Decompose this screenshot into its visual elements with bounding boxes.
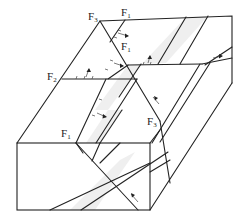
strata-lines	[50, 16, 232, 210]
label-f1-mid: F1	[121, 40, 131, 54]
label-f2-left: F2	[47, 70, 57, 84]
strata-bands	[70, 16, 208, 210]
label-f3-top: F3	[88, 10, 98, 24]
label-f1-top: F1	[121, 6, 131, 20]
geologic-block-diagram: F3 F1 F1 F2 F1 F3	[0, 0, 242, 220]
label-f3-right: F3	[147, 115, 157, 129]
label-f1-front: F1	[61, 127, 71, 141]
